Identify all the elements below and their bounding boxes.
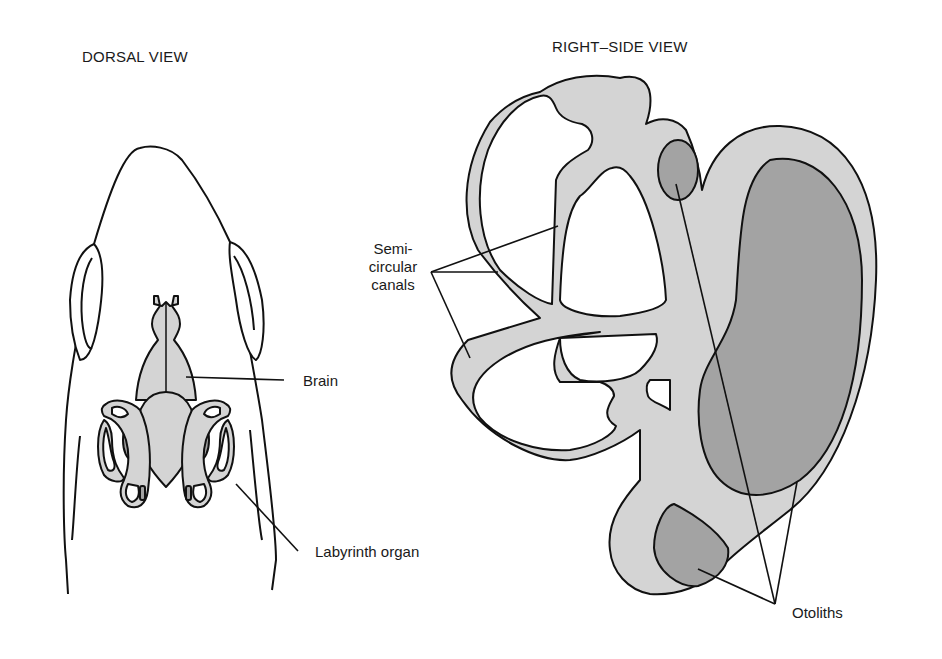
- dorsal-labyrinth-left: [98, 401, 150, 508]
- labyrinth-organ-label: Labyrinth organ: [315, 543, 419, 561]
- canals-label-line1: Semi-: [356, 240, 430, 258]
- side-view-title: RIGHT–SIDE VIEW: [552, 38, 688, 56]
- otolith-leader-3: [698, 569, 775, 604]
- right-eye: [229, 242, 263, 360]
- brain-leader-line: [186, 377, 284, 380]
- body-left-inner: [72, 436, 80, 540]
- labyrinth-leader-line: [236, 484, 298, 551]
- head-outline: [94, 147, 230, 244]
- dorsal-view-title: DORSAL VIEW: [82, 48, 188, 66]
- semicircular-canals-label: Semi- circular canals: [356, 240, 430, 294]
- canals-label-line3: canals: [356, 276, 430, 294]
- side-view-figure: [451, 76, 876, 595]
- canals-label-line2: circular: [356, 258, 430, 276]
- dorsal-labyrinth-right: [182, 401, 234, 508]
- canal-leader-3: [431, 272, 470, 358]
- body-right-inner: [250, 430, 262, 540]
- diagram-canvas: [0, 0, 942, 659]
- otoliths-label: Otoliths: [792, 604, 843, 622]
- brain-label: Brain: [303, 372, 338, 390]
- dorsal-view-figure: [64, 147, 298, 594]
